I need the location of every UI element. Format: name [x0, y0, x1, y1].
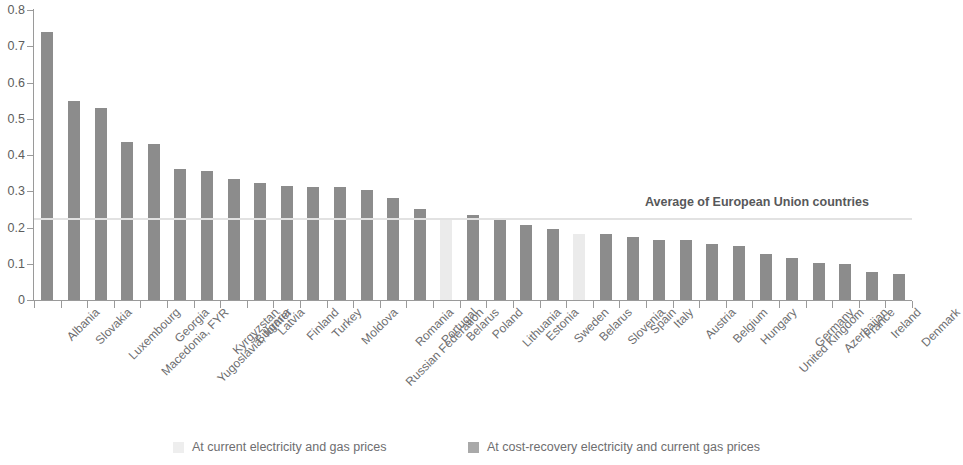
y-axis-tick — [27, 46, 34, 47]
y-axis-tick-label: 0.1 — [0, 258, 25, 271]
y-axis-tick — [27, 10, 34, 11]
bar — [839, 264, 851, 300]
bar — [201, 171, 213, 300]
bar — [148, 144, 160, 300]
average-line-label: Average of European Union countries — [645, 196, 869, 209]
y-axis-tick — [27, 119, 34, 120]
bar — [414, 209, 426, 300]
bar — [866, 272, 878, 300]
bar — [281, 186, 293, 300]
legend-swatch-icon — [173, 442, 184, 453]
bar — [387, 198, 399, 300]
average-line — [34, 218, 912, 220]
category-labels: AlbaniaSlovakiaLuxembourgMacedonia, FYRG… — [0, 300, 913, 410]
bars-layer — [34, 10, 912, 300]
bar — [627, 237, 639, 300]
bar — [174, 169, 186, 300]
bar — [680, 240, 692, 300]
y-axis-tick-label: 0.2 — [0, 222, 25, 235]
bar — [41, 32, 53, 300]
y-axis-tick-label: 0.3 — [0, 185, 25, 198]
y-axis-tick-label: 0.7 — [0, 40, 25, 53]
bar — [68, 101, 80, 300]
bar — [254, 183, 266, 300]
chart-legend: At current electricity and gas pricesAt … — [0, 437, 913, 461]
x-axis-category-label: Moldova — [359, 306, 400, 347]
bar — [95, 108, 107, 300]
y-axis-tick-label: 0.6 — [0, 77, 25, 90]
bar — [361, 190, 373, 300]
bar — [813, 263, 825, 300]
bar — [547, 229, 559, 300]
y-axis-tick — [27, 228, 34, 229]
bar — [228, 179, 240, 300]
bar — [786, 258, 798, 300]
bar — [121, 142, 133, 300]
bar — [706, 244, 718, 300]
y-axis-tick — [27, 191, 34, 192]
bar — [307, 187, 319, 300]
bar — [733, 246, 745, 300]
bar — [573, 234, 585, 300]
y-axis-tick — [27, 264, 34, 265]
bar — [334, 187, 346, 300]
bar — [600, 234, 612, 300]
legend-item: At cost-recovery electricity and current… — [468, 441, 760, 454]
bar — [893, 274, 905, 300]
legend-label: At current electricity and gas prices — [192, 441, 387, 454]
legend-swatch-icon — [468, 442, 479, 453]
x-axis-category-label: Denmark — [919, 306, 962, 349]
y-axis-tick-label: 0.4 — [0, 149, 25, 162]
y-axis-tick-label: 0.8 — [0, 4, 25, 17]
y-axis-tick-label: 0.5 — [0, 113, 25, 126]
bar — [520, 225, 532, 300]
bar — [760, 254, 772, 300]
bar — [494, 220, 506, 300]
x-axis-category-label: Italy — [672, 306, 696, 330]
legend-label: At cost-recovery electricity and current… — [487, 441, 760, 454]
bar — [440, 220, 452, 300]
y-axis-tick — [27, 155, 34, 156]
bar — [467, 215, 479, 300]
y-axis-tick — [27, 83, 34, 84]
bar — [653, 240, 665, 300]
legend-item: At current electricity and gas prices — [173, 441, 387, 454]
